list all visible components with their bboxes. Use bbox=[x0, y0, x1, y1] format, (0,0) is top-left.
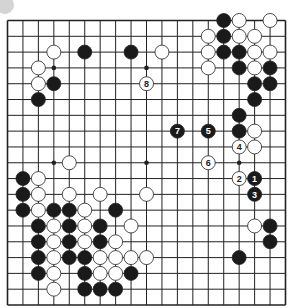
black-stone bbox=[263, 219, 277, 233]
black-stone bbox=[31, 219, 45, 233]
black-stone bbox=[232, 251, 246, 265]
black-stone bbox=[62, 203, 76, 217]
white-stone bbox=[93, 266, 107, 280]
move-number-label: 1 bbox=[252, 174, 257, 184]
white-stone bbox=[62, 187, 76, 201]
black-stone bbox=[93, 219, 107, 233]
white-stone bbox=[263, 45, 277, 59]
black-stone bbox=[31, 235, 45, 249]
white-stone bbox=[248, 45, 262, 59]
white-stone bbox=[31, 172, 45, 186]
white-stone bbox=[248, 29, 262, 43]
black-stone bbox=[78, 45, 92, 59]
white-stone bbox=[140, 251, 154, 265]
white-stone bbox=[78, 219, 92, 233]
black-stone bbox=[31, 93, 45, 107]
white-stone bbox=[124, 251, 138, 265]
white-stone bbox=[31, 203, 45, 217]
black-stone bbox=[31, 251, 45, 265]
white-stone bbox=[201, 61, 215, 75]
white-stone bbox=[47, 282, 61, 296]
white-stone bbox=[78, 203, 92, 217]
black-stone bbox=[93, 235, 107, 249]
black-stone bbox=[248, 77, 262, 91]
white-stone bbox=[232, 29, 246, 43]
black-stone bbox=[47, 77, 61, 91]
white-stone bbox=[47, 251, 61, 265]
black-stone bbox=[263, 61, 277, 75]
move-number-label: 7 bbox=[175, 126, 180, 136]
black-stone bbox=[232, 61, 246, 75]
black-stone bbox=[78, 266, 92, 280]
black-stone bbox=[31, 266, 45, 280]
move-number-label: 3 bbox=[252, 190, 257, 200]
move-number-label: 4 bbox=[237, 142, 242, 152]
black-stone bbox=[62, 235, 76, 249]
white-stone bbox=[47, 219, 61, 233]
star-point bbox=[144, 160, 149, 165]
black-stone bbox=[78, 251, 92, 265]
white-stone bbox=[109, 266, 123, 280]
move-number-label: 5 bbox=[206, 126, 211, 136]
white-stone bbox=[232, 14, 246, 28]
white-stone bbox=[78, 235, 92, 249]
white-stone bbox=[31, 61, 45, 75]
white-stone bbox=[47, 266, 61, 280]
black-stone bbox=[62, 251, 76, 265]
white-stone bbox=[109, 235, 123, 249]
star-point bbox=[52, 66, 57, 71]
white-stone bbox=[263, 14, 277, 28]
black-stone bbox=[263, 235, 277, 249]
black-stone bbox=[62, 219, 76, 233]
black-stone bbox=[217, 29, 231, 43]
black-stone bbox=[124, 266, 138, 280]
white-stone bbox=[248, 140, 262, 154]
go-board: 12345678 bbox=[0, 0, 294, 308]
black-stone bbox=[232, 45, 246, 59]
white-stone bbox=[140, 187, 154, 201]
star-point bbox=[52, 160, 57, 165]
white-stone bbox=[248, 219, 262, 233]
white-stone bbox=[93, 187, 107, 201]
white-stone bbox=[201, 45, 215, 59]
numbered-moves-layer: 12345678 bbox=[140, 77, 262, 202]
white-stone bbox=[124, 219, 138, 233]
black-stone bbox=[109, 203, 123, 217]
black-stone bbox=[232, 108, 246, 122]
black-stone bbox=[263, 77, 277, 91]
white-stone bbox=[47, 235, 61, 249]
star-point bbox=[144, 66, 149, 71]
black-stone bbox=[124, 45, 138, 59]
white-stone bbox=[201, 29, 215, 43]
black-stone bbox=[16, 187, 30, 201]
white-stone bbox=[109, 251, 123, 265]
white-stone bbox=[93, 251, 107, 265]
black-stone bbox=[78, 282, 92, 296]
black-stone bbox=[93, 282, 107, 296]
black-stone bbox=[47, 203, 61, 217]
black-stone bbox=[16, 172, 30, 186]
black-stone bbox=[109, 282, 123, 296]
black-stone bbox=[217, 45, 231, 59]
black-stone bbox=[248, 93, 262, 107]
black-stone bbox=[232, 124, 246, 138]
white-stone bbox=[155, 45, 169, 59]
white-stone bbox=[248, 124, 262, 138]
white-stone bbox=[62, 156, 76, 170]
white-stone bbox=[47, 45, 61, 59]
star-point bbox=[237, 160, 242, 165]
move-number-label: 6 bbox=[206, 158, 211, 168]
black-stone bbox=[16, 203, 30, 217]
white-stone bbox=[31, 77, 45, 91]
move-number-label: 8 bbox=[144, 79, 149, 89]
move-number-label: 2 bbox=[237, 174, 242, 184]
black-stone bbox=[217, 14, 231, 28]
white-stone bbox=[31, 187, 45, 201]
white-stone bbox=[248, 61, 262, 75]
